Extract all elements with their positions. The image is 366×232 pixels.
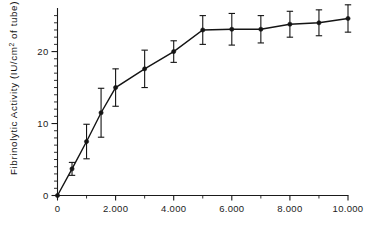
x-tick-label: 0 — [55, 203, 61, 214]
data-point-marker — [143, 67, 147, 71]
data-point-marker — [99, 111, 103, 115]
y-tick-label: 10 — [37, 118, 48, 129]
y-axis-tick-labels: 01020 — [37, 46, 48, 201]
data-point-marker — [317, 21, 321, 25]
chart-plot-area: 02.0004.0006.0008.00010.000 01020 Fibrin… — [0, 0, 366, 232]
data-point-marker — [172, 49, 176, 53]
data-point-marker — [230, 27, 234, 31]
data-point-marker — [288, 22, 292, 26]
x-tick-label: 2.000 — [103, 203, 128, 214]
data-point-marker — [259, 27, 263, 31]
y-tick-label: 20 — [37, 46, 48, 57]
data-point-marker — [114, 85, 118, 89]
fibrinolytic-activity-chart: 02.0004.0006.0008.00010.000 01020 Fibrin… — [0, 0, 366, 232]
data-point-marker — [346, 16, 350, 20]
y-axis-title: Fibrinolytic Activity (IU/cm2 of tube) — [8, 1, 19, 175]
x-axis-tick-labels: 02.0004.0006.0008.00010.000 — [55, 203, 364, 214]
x-tick-label: 8.000 — [277, 203, 302, 214]
data-point-marker — [201, 28, 205, 32]
y-tick-label: 0 — [43, 190, 49, 201]
data-point-marker — [70, 167, 74, 171]
x-tick-label: 4.000 — [161, 203, 186, 214]
tick-marks-group — [52, 16, 349, 201]
data-series-group — [55, 5, 351, 198]
data-point-marker — [55, 193, 59, 197]
x-tick-label: 10.000 — [333, 203, 364, 214]
x-tick-label: 6.000 — [219, 203, 244, 214]
data-point-marker — [84, 139, 88, 143]
